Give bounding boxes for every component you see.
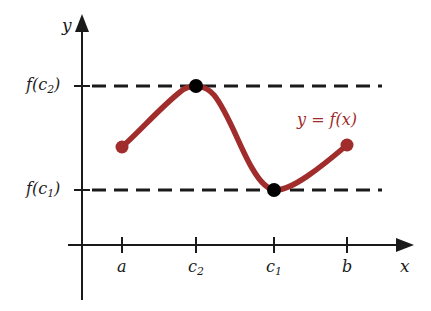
y-value-label-fc2-subscript: 2	[47, 83, 54, 96]
y-value-label-fc1-subscript: 1	[47, 187, 54, 200]
x-tick-label-c1: c1	[266, 259, 282, 278]
function-curve	[122, 86, 347, 190]
y-value-label-fc1-base: f(c	[26, 179, 47, 198]
x-tick-label-c2-base: c	[188, 257, 197, 276]
curve-equation-label: y = f(x)	[297, 112, 357, 128]
x-axis-label: x	[400, 258, 410, 275]
x-tick-label-c2-subscript: 2	[197, 265, 204, 278]
y-value-label-fc1: f(c1)	[26, 181, 60, 200]
left-endpoint-dot	[116, 141, 129, 154]
x-axis-arrowhead	[396, 238, 414, 252]
function-graph-figure: y x f(c2) f(c1) a c2 c1 b y = f(x)	[0, 0, 431, 311]
graph-canvas	[0, 0, 431, 311]
local-minimum-dot	[267, 183, 281, 197]
local-maximum-dot	[189, 79, 203, 93]
y-value-label-fc1-suffix: )	[54, 179, 60, 198]
y-value-label-fc2-base: f(c	[26, 75, 47, 94]
y-value-label-fc2: f(c2)	[26, 77, 60, 96]
x-tick-label-a: a	[117, 259, 127, 278]
x-tick-label-c2: c2	[188, 259, 204, 278]
x-tick-label-c1-subscript: 1	[275, 265, 282, 278]
y-axis-label: y	[62, 17, 72, 34]
x-tick-label-c1-base: c	[266, 257, 275, 276]
x-tick-label-a-base: a	[117, 257, 127, 276]
right-endpoint-dot	[341, 139, 354, 152]
y-axis-arrowhead	[75, 14, 89, 32]
x-tick-label-b: b	[342, 259, 352, 278]
y-value-label-fc2-suffix: )	[54, 75, 60, 94]
x-tick-label-b-base: b	[342, 257, 352, 276]
